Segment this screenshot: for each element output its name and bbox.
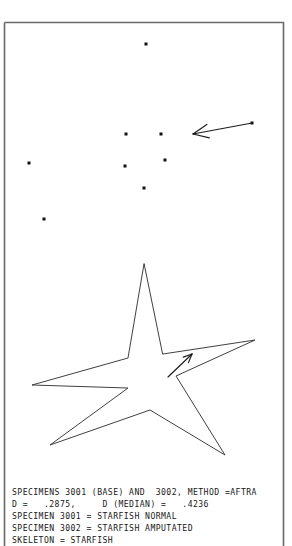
displacement-vectors-layer	[168, 123, 252, 377]
data-point	[143, 187, 146, 190]
data-point	[125, 133, 128, 136]
caption-line-2: D = .2875, D (MEDIAN) = .4236	[12, 499, 209, 509]
skeleton-outline	[32, 264, 255, 455]
figure-canvas: SPECIMENS 3001 (BASE) AND 3002, METHOD =…	[0, 0, 292, 546]
frame-border	[5, 23, 284, 546]
caption-line-1: SPECIMENS 3001 (BASE) AND 3002, METHOD =…	[12, 487, 257, 497]
plot-svg: SPECIMENS 3001 (BASE) AND 3002, METHOD =…	[0, 0, 292, 546]
displacement-arrow-outer	[193, 123, 252, 138]
data-point	[124, 165, 127, 168]
caption-line-3: SPECIMEN 3001 = STARFISH NORMAL	[12, 511, 177, 521]
arrowhead-barb-1	[193, 134, 209, 138]
data-point	[164, 159, 167, 162]
data-point	[160, 133, 163, 136]
displacement-arrow-inner	[168, 354, 192, 377]
starfish-skeleton-layer	[32, 264, 255, 455]
caption-line-5: SKELETON = STARFISH	[12, 535, 113, 545]
data-point	[28, 162, 31, 165]
data-point	[145, 43, 148, 46]
caption-block: SPECIMENS 3001 (BASE) AND 3002, METHOD =…	[12, 487, 257, 545]
caption-line-4: SPECIMEN 3002 = STARFISH AMPUTATED	[12, 523, 193, 533]
plot-frame	[5, 23, 284, 546]
data-point	[43, 218, 46, 221]
scatter-points-layer	[28, 43, 254, 221]
vector-shaft	[168, 354, 192, 377]
